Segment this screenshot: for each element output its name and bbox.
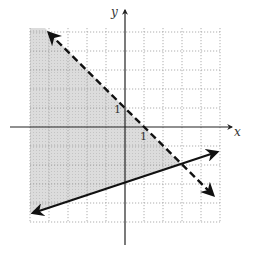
x-tick-label: 1 [140, 130, 147, 143]
inequality-graph: x y 1 1 [0, 0, 255, 255]
y-axis-label: y [110, 5, 118, 19]
x-axis-label: x [234, 125, 241, 139]
y-tick-label: 1 [114, 103, 121, 116]
